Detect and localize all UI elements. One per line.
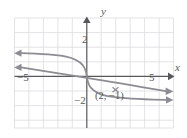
tick-label-x-5: 5 [149, 72, 155, 83]
curve-line-right-arrowhead [166, 88, 174, 95]
y-axis-arrowhead [83, 17, 91, 24]
tick-label-x-negative-5: −5 [17, 72, 29, 83]
y-axis-label: y [101, 6, 106, 17]
curve-line-left-arrowhead [14, 64, 21, 71]
point-coordinate-label: (2, −1) [95, 91, 124, 102]
x-axis-label: x [175, 62, 180, 73]
graph-figure: y x 2 −2 −5 5 (2, −1) [0, 0, 187, 138]
curve-sigmoid-left-arrowhead [14, 50, 21, 57]
graph-canvas [0, 0, 187, 138]
tick-label-y-2: 2 [82, 34, 88, 45]
curve-sigmoid-right-arrowhead [166, 96, 173, 103]
tick-label-y-negative-2: −2 [74, 95, 86, 106]
